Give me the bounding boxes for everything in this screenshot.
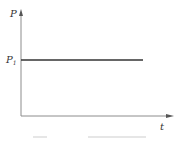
p1-tick-label: P1 (5, 54, 17, 66)
x-axis-arrow-icon (166, 114, 174, 118)
caption-fragment (33, 136, 47, 138)
chart: P P1 t (0, 0, 179, 142)
x-axis-label: t (160, 121, 165, 132)
caption-fragment (88, 136, 146, 138)
y-axis-label: P (9, 8, 17, 19)
y-axis-arrow-icon (19, 9, 23, 16)
